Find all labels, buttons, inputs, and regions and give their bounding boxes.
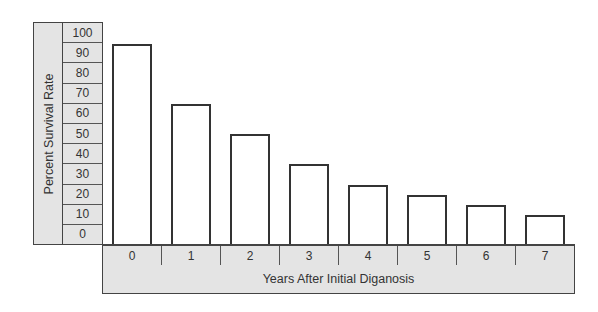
- x-tick-label: 1: [162, 246, 221, 265]
- x-tick-label: 6: [457, 246, 516, 265]
- bar-year-6: [466, 205, 506, 245]
- x-axis-title: Years After Initial Diganosis: [102, 265, 575, 294]
- y-axis-title: Percent Survival Rate: [42, 73, 56, 194]
- bar-year-1: [171, 104, 211, 245]
- y-tick-label: 30: [63, 164, 102, 184]
- y-tick-label: 60: [63, 104, 102, 124]
- y-axis-ticks: 1009080706050403020100: [62, 22, 103, 245]
- y-tick-label: 0: [63, 225, 102, 244]
- bar-year-5: [407, 195, 447, 245]
- x-tick-label: 3: [280, 246, 339, 265]
- bar-year-7: [525, 215, 565, 245]
- x-tick-label: 2: [221, 246, 280, 265]
- x-tick-label: 4: [339, 246, 398, 265]
- y-tick-label: 80: [63, 63, 102, 83]
- y-tick-label: 10: [63, 205, 102, 225]
- y-tick-label: 90: [63, 43, 102, 63]
- bar-year-2: [230, 134, 270, 245]
- x-tick-label: 7: [516, 246, 574, 265]
- y-tick-label: 50: [63, 124, 102, 144]
- y-tick-label: 40: [63, 144, 102, 164]
- bar-year-0: [112, 44, 152, 245]
- bar-year-4: [348, 185, 388, 245]
- y-tick-label: 100: [63, 23, 102, 43]
- y-tick-label: 70: [63, 84, 102, 104]
- x-tick-label: 0: [103, 246, 162, 265]
- x-axis-ticks: 01234567: [102, 245, 575, 266]
- y-axis-title-box: Percent Survival Rate: [33, 22, 63, 245]
- plot-area: [103, 22, 575, 245]
- y-tick-label: 20: [63, 185, 102, 205]
- x-tick-label: 5: [398, 246, 457, 265]
- bar-year-3: [289, 164, 329, 245]
